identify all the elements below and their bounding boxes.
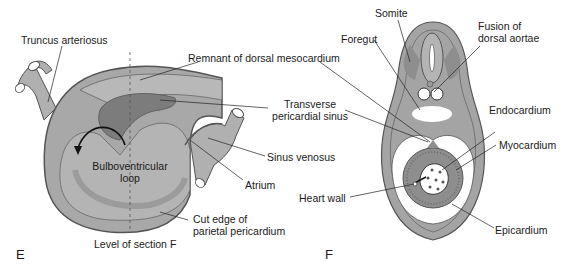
label-transverse-line1: Transverse (270, 98, 350, 110)
label-cut-edge-line1: Cut edge of (193, 213, 285, 225)
label-foregut: Foregut (341, 33, 377, 45)
label-bulboventricular-loop: Bulboventricular loop (80, 160, 180, 184)
label-endocardium: Endocardium (489, 104, 551, 116)
label-myocardium: Myocardium (499, 139, 556, 151)
label-fusion-line2: dorsal aortae (478, 32, 539, 44)
label-cut-edge-line2: parietal pericardium (193, 225, 285, 237)
label-level-of-section-f: Level of section F (94, 238, 176, 250)
label-fusion-line1: Fusion of (478, 20, 539, 32)
label-sinus-venosus: Sinus venosus (267, 151, 335, 163)
label-somite: Somite (375, 7, 408, 19)
label-bulbo-line2: loop (80, 172, 180, 184)
panel-letter-e: E (16, 247, 25, 262)
panel-e-drawing (14, 52, 246, 233)
dorsal-aorta-left (418, 88, 430, 100)
label-heart-wall: Heart wall (299, 192, 346, 204)
label-bulbo-line1: Bulboventricular (80, 160, 180, 172)
label-atrium: Atrium (245, 179, 275, 191)
panel-f-drawing (382, 22, 485, 240)
label-transverse-pericardial-sinus: Transverse pericardial sinus (270, 98, 350, 122)
foregut (412, 106, 452, 122)
dorsal-aorta-right (431, 88, 443, 100)
label-truncus-arteriosus: Truncus arteriosus (21, 34, 108, 46)
panel-letter-f: F (325, 247, 333, 262)
label-fusion-dorsal-aortae: Fusion of dorsal aortae (478, 20, 539, 44)
label-transverse-line2: pericardial sinus (270, 110, 350, 122)
label-epicardium: Epicardium (495, 224, 548, 236)
sinus-venosus-vessel (190, 110, 244, 185)
label-remnant-dorsal-mesocardium: Remnant of dorsal mesocardium (188, 52, 340, 64)
label-cut-edge-parietal-pericardium: Cut edge of parietal pericardium (193, 213, 285, 237)
